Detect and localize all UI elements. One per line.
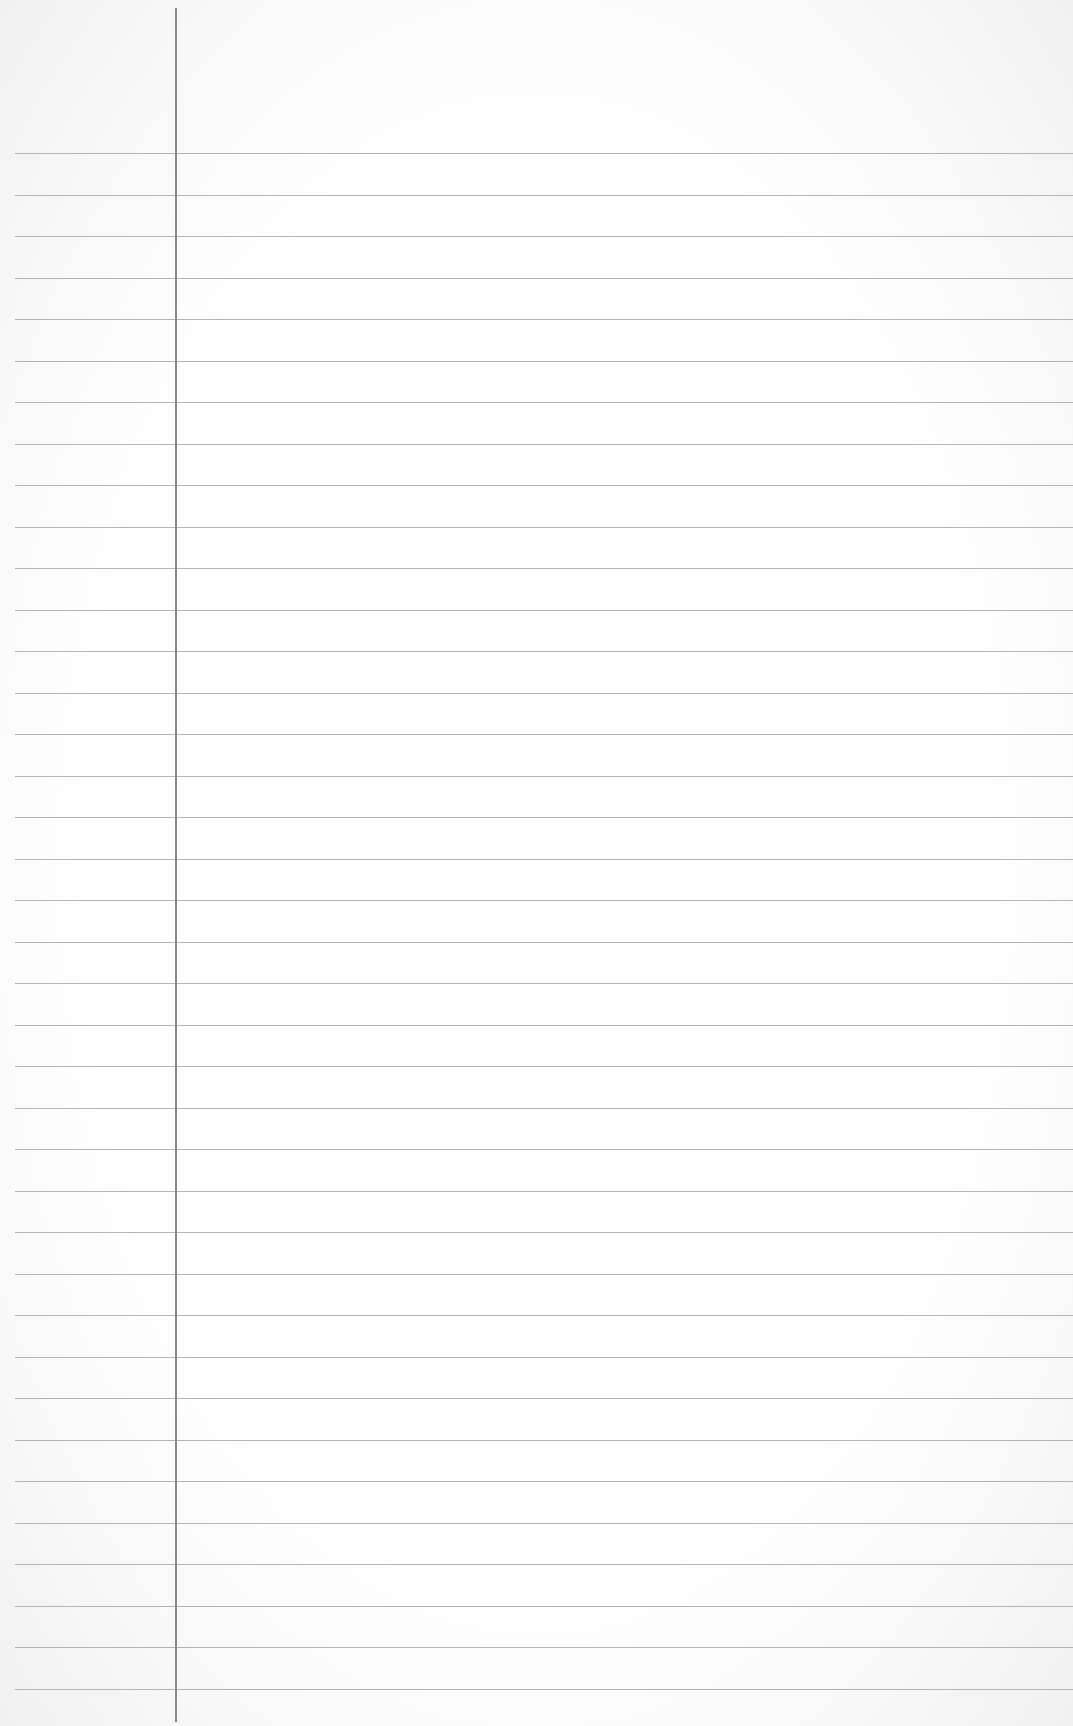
- ruled-line: [15, 1025, 1073, 1026]
- ruled-line: [15, 1149, 1073, 1150]
- ruled-line: [15, 1523, 1073, 1524]
- margin-line: [175, 8, 177, 1722]
- ruled-line: [15, 1108, 1073, 1109]
- ruled-line: [15, 983, 1073, 984]
- lined-paper: [0, 0, 1073, 1726]
- ruled-line: [15, 278, 1073, 279]
- ruled-line: [15, 817, 1073, 818]
- ruled-line: [15, 1191, 1073, 1192]
- ruled-line: [15, 1315, 1073, 1316]
- ruled-line: [15, 1232, 1073, 1233]
- ruled-line: [15, 402, 1073, 403]
- ruled-line: [15, 651, 1073, 652]
- ruled-line: [15, 1647, 1073, 1648]
- ruled-line: [15, 1481, 1073, 1482]
- ruled-line: [15, 568, 1073, 569]
- ruled-line: [15, 1398, 1073, 1399]
- ruled-line: [15, 485, 1073, 486]
- ruled-line: [15, 900, 1073, 901]
- ruled-line: [15, 1274, 1073, 1275]
- ruled-line: [15, 734, 1073, 735]
- ruled-line: [15, 1440, 1073, 1441]
- ruled-line: [15, 195, 1073, 196]
- ruled-line: [15, 236, 1073, 237]
- ruled-line: [15, 1357, 1073, 1358]
- ruled-line: [15, 610, 1073, 611]
- ruled-line: [15, 1564, 1073, 1565]
- ruled-line: [15, 1066, 1073, 1067]
- ruled-line: [15, 859, 1073, 860]
- ruled-line: [15, 319, 1073, 320]
- ruled-line: [15, 776, 1073, 777]
- ruled-line: [15, 444, 1073, 445]
- ruled-line: [15, 942, 1073, 943]
- ruled-line: [15, 153, 1073, 154]
- ruled-line: [15, 1606, 1073, 1607]
- ruled-line: [15, 361, 1073, 362]
- ruled-line: [15, 693, 1073, 694]
- ruled-line: [15, 527, 1073, 528]
- ruled-line: [15, 1689, 1073, 1690]
